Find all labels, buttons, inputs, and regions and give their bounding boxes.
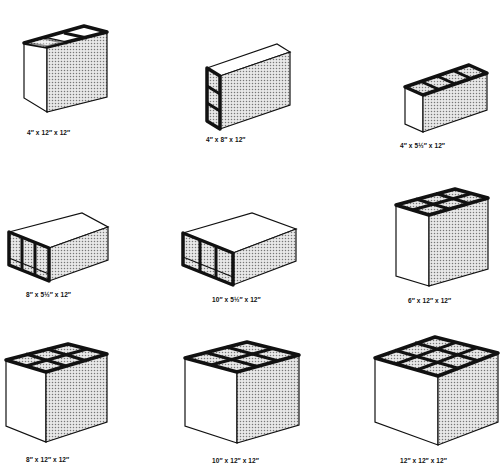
- block-4x5.5x12: 4″ x 5½″ x 12″: [370, 50, 501, 160]
- block-drawing: [170, 195, 340, 310]
- block-drawing: [0, 330, 140, 474]
- block-12x12x12: 12″ x 12″ x 12″: [360, 330, 501, 474]
- block-label: 12″ x 12″ x 12″: [400, 457, 447, 464]
- block-4x8x12: 4″ x 8″ x 12″: [170, 40, 320, 160]
- block-10x12x12: 10″ x 12″ x 12″: [170, 330, 330, 474]
- block-drawing: [170, 330, 330, 474]
- block-label: 4″ x 12″ x 12″: [27, 129, 70, 136]
- block-drawing: [370, 175, 501, 315]
- block-8x12x12: 8″ x 12″ x 12″: [0, 330, 140, 474]
- block-8x5.5x12: 8″ x 5½″ x 12″: [0, 195, 160, 305]
- block-label: 4″ x 8″ x 12″: [206, 136, 246, 143]
- block-label: 8″ x 12″ x 12″: [26, 456, 69, 463]
- block-drawing: [0, 0, 170, 150]
- block-label: 4″ x 5½″ x 12″: [400, 142, 445, 149]
- block-6x12x12: 6″ x 12″ x 12″: [370, 175, 501, 315]
- block-drawing: [360, 330, 501, 474]
- block-label: 8″ x 5½″ x 12″: [26, 291, 71, 298]
- block-label: 10″ x 12″ x 12″: [212, 457, 259, 464]
- block-label: 6″ x 12″ x 12″: [408, 297, 451, 304]
- block-drawing: [0, 195, 160, 305]
- block-10x5.5x12: 10″ x 5½″ x 12″: [170, 195, 340, 310]
- block-4x12x12: 4″ x 12″ x 12″: [0, 0, 170, 150]
- block-label: 10″ x 5½″ x 12″: [212, 296, 261, 303]
